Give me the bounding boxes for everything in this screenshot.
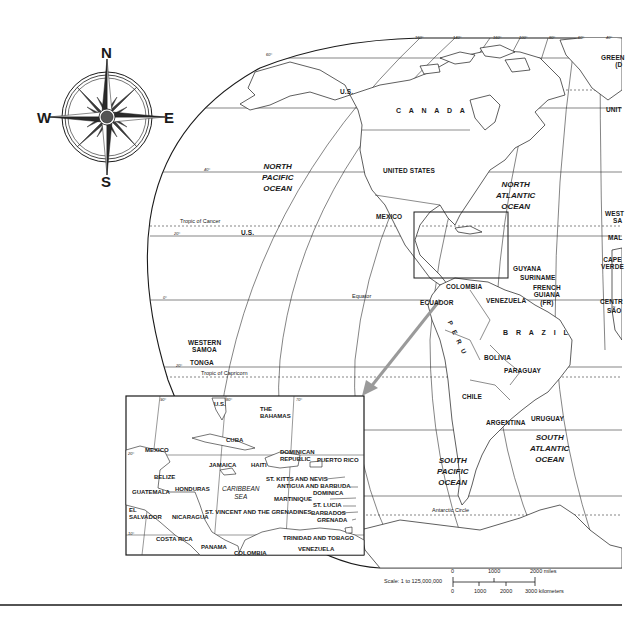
country-label-western-samoa: WESTERN SAMOA — [188, 339, 221, 354]
longitude-label: 80° — [549, 36, 555, 40]
inset-label-dominican-republic: DOMINICAN REPUBLIC — [280, 449, 315, 463]
latitude-label: 20° — [176, 364, 182, 368]
country-label-canada: C A N A D A — [396, 107, 468, 114]
inset-label-honduras: HONDURAS — [175, 486, 210, 492]
inset-label-nicaragua: NICARAGUA — [172, 514, 209, 520]
inset-label-st-kitts-nevis: ST. KITTS AND NEVIS — [266, 476, 328, 482]
scale-km-tick: 3000 kilometers — [525, 589, 564, 595]
scale-km-tick: 1000 — [474, 589, 486, 595]
inset-label-belize: BELIZE — [154, 474, 175, 480]
inset-label-antigua-barbuda: ANTIGUA AND BARBUDA — [277, 483, 351, 489]
latitude-label: 60° — [266, 53, 272, 57]
country-label-cape-verde: CAPE VERDE — [601, 256, 624, 271]
inset-label-trinidad-tobago: TRINIDAD AND TOBAGO — [283, 535, 354, 541]
longitude-label: 140° — [453, 36, 461, 40]
inset-label-jamaica: JAMAICA — [209, 462, 236, 468]
inset-label-st-vincent-grenadines: ST. VINCENT AND THE GRENADINES — [205, 509, 311, 515]
country-label-guyana: GUYANA — [513, 266, 541, 273]
south-atlantic-ocean-label: SOUTH ATLANTIC OCEAN — [530, 433, 569, 465]
inset-label-grenada: GRENADA — [317, 517, 347, 523]
scale-miles-tick: 1000 — [488, 569, 500, 575]
inset-label-el-salvador: EL SALVADOR — [129, 507, 162, 521]
longitude-label: 100° — [519, 36, 527, 40]
inset-label-mexico: MEXICO — [145, 447, 169, 453]
country-label-colombia: COLOMBIA — [446, 284, 482, 291]
inset-latitude-label: 20° — [128, 452, 134, 456]
scale-km-tick: 2000 — [500, 589, 512, 595]
latitude-label: 40° — [204, 168, 210, 172]
inset-label-us: U.S. — [214, 401, 226, 407]
tropic-of-cancer-label: Tropic of Cancer — [180, 219, 220, 225]
latitude-label: 20° — [174, 232, 180, 236]
longitude-label: 40° — [606, 36, 612, 40]
equator-label: Equator — [352, 294, 371, 300]
scale-ratio-label: Scale: 1 to 125,000,000 — [384, 579, 442, 585]
scale-miles-tick: 2000 miles — [530, 569, 557, 575]
country-label-united-kingdom-partial: UNIT — [606, 107, 622, 114]
scale-bar-graphics — [453, 577, 535, 587]
country-label-suriname: SURINAME — [520, 275, 555, 282]
country-label-united-states: UNITED STATES — [383, 168, 435, 175]
south-pacific-ocean-label: SOUTH PACIFIC OCEAN — [437, 456, 468, 488]
country-label-sao-tome-partial: SÃO — [607, 308, 621, 315]
inset-label-colombia: COLOMBIA — [234, 550, 267, 556]
country-label-venezuela: VENEZUELA — [486, 298, 526, 305]
country-label-hawaii: U.S. — [241, 230, 254, 237]
inset-label-haiti: HAITI — [251, 462, 267, 468]
inset-label-bahamas: THE BAHAMAS — [260, 406, 291, 420]
inset-label-dominica: DOMINICA — [313, 490, 343, 496]
scale-miles-tick: 0 — [451, 569, 454, 575]
country-label-ecuador: ECUADOR — [420, 300, 454, 307]
inset-label-martinique: MARTINIQUE — [274, 496, 312, 502]
inset-longitude-label: 90° — [160, 398, 166, 402]
country-label-bolivia: BOLIVIA — [484, 355, 511, 362]
north-atlantic-ocean-label: NORTH ATLANTIC OCEAN — [496, 180, 535, 212]
country-label-brazil: B R A Z I L — [503, 329, 571, 336]
country-label-tonga: TONGA — [190, 360, 214, 367]
country-label-uruguay: URUGUAY — [531, 416, 564, 423]
inset-label-venezuela: VENEZUELA — [298, 546, 334, 552]
inset-label-barbados: BARBADOS — [311, 510, 346, 516]
inset-latitude-label: 10° — [128, 532, 134, 536]
compass-rose-graphics — [49, 59, 165, 175]
country-label-chile: CHILE — [462, 394, 482, 401]
inset-label-cuba: CUBA — [226, 437, 243, 443]
country-label-greenland-partial: GREEN (D — [601, 54, 625, 69]
country-label-central-african-partial: CENTR — [600, 299, 623, 306]
north-pacific-ocean-label: NORTH PACIFIC OCEAN — [262, 162, 293, 194]
country-label-western-sahara-partial: WEST SA — [605, 210, 624, 225]
inset-label-puerto-rico: PUERTO RICO — [317, 457, 359, 463]
country-label-argentina: ARGENTINA — [486, 420, 526, 427]
inset-label-caribbean-sea: CARIBBEAN SEA — [222, 485, 260, 502]
longitude-label: 160° — [415, 36, 423, 40]
country-label-mali-partial: MAL — [608, 235, 622, 242]
compass-east-label: E — [164, 110, 174, 125]
compass-west-label: W — [37, 110, 51, 125]
country-label-mexico: MEXICO — [376, 214, 402, 221]
antarctic-circle-label: Antarctic Circle — [432, 508, 469, 514]
longitude-label: 160° — [493, 36, 501, 40]
inset-arrow — [362, 300, 440, 396]
country-label-french-guiana: FRENCH GUIANA (FR) — [533, 284, 561, 306]
inset-label-panama: PANAMA — [201, 544, 227, 550]
compass-south-label: S — [101, 174, 111, 189]
tropic-of-capricorn-label: Tropic of Capricorn — [201, 371, 248, 377]
latitude-label: 0° — [163, 296, 167, 300]
inset-label-costa-rica: COSTA RICA — [156, 536, 193, 542]
longitude-label: 60° — [578, 36, 584, 40]
inset-longitude-label: 80° — [226, 398, 232, 402]
inset-label-guatemala: GUATEMALA — [132, 489, 170, 495]
country-label-paraguay: PARAGUAY — [504, 368, 541, 375]
compass-north-label: N — [101, 45, 112, 60]
scale-km-tick: 0 — [451, 589, 454, 595]
country-label-alaska: U.S. — [340, 89, 353, 96]
inset-label-st-lucia: ST. LUCIA — [313, 502, 342, 508]
inset-longitude-label: 70° — [296, 398, 302, 402]
